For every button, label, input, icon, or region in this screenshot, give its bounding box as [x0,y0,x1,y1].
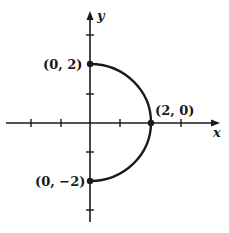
y-axis-arrow-icon [87,11,94,20]
y-axis [86,11,94,222]
coordinate-plane: y x (0, 2) (2, 0) (0, −2) [0,0,229,233]
point-2-0 [148,120,154,126]
y-axis-label: y [96,8,106,23]
x-axis [6,119,220,127]
point-label-2-0: (2, 0) [155,103,194,118]
point-label-0-neg2: (0, −2) [35,174,85,189]
point-0-neg2 [87,178,93,184]
point-label-0-2: (0, 2) [43,57,82,72]
point-0-2 [87,61,93,67]
x-axis-label: x [212,125,221,140]
